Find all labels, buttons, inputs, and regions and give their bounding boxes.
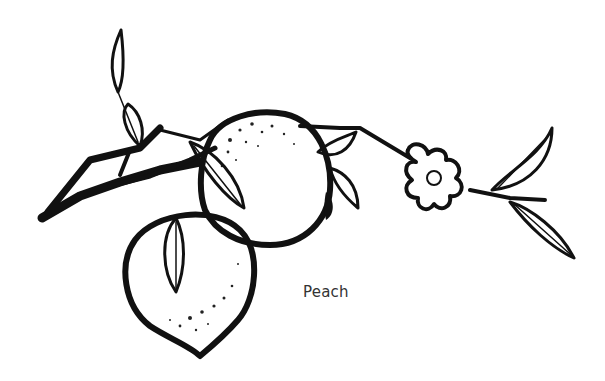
leaf-sprout — [112, 30, 142, 146]
blossom — [406, 144, 461, 209]
peach-illustration — [0, 0, 605, 381]
leaves — [165, 128, 574, 292]
caption-label: Peach — [303, 283, 349, 301]
branch-drawing — [42, 120, 545, 218]
